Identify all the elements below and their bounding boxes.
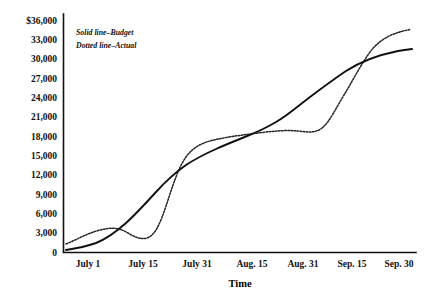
legend-entry-budget: Solid line–Budget <box>76 28 134 37</box>
legend-entry-actual: Dotted line–Actual <box>75 41 137 50</box>
y-tick-label: 21,000 <box>31 112 57 122</box>
x-tick-label: Sep. 15 <box>337 259 366 269</box>
chart-canvas: $36,000 33,000 30,000 27,000 24,000 21,0… <box>0 0 424 304</box>
y-tick-label: 3,000 <box>36 228 58 238</box>
x-tick-label: Aug. 15 <box>236 259 267 269</box>
x-tick-label: July 31 <box>182 259 212 269</box>
y-tick-label: 9,000 <box>36 190 58 200</box>
series-budget-line <box>66 49 412 250</box>
x-tick-label: July 1 <box>76 259 101 269</box>
line-chart: $36,000 33,000 30,000 27,000 24,000 21,0… <box>0 0 424 304</box>
y-tick-label: 6,000 <box>36 209 58 219</box>
y-tick-label: 0 <box>52 248 57 258</box>
x-tick-label: Aug. 31 <box>287 259 318 269</box>
x-tick-label: Sep. 30 <box>384 259 413 269</box>
y-tick-label: 27,000 <box>31 74 57 84</box>
y-tick-label: 30,000 <box>31 54 57 64</box>
y-tick-label: $36,000 <box>26 16 57 26</box>
y-axis-tick-labels: $36,000 33,000 30,000 27,000 24,000 21,0… <box>26 16 57 258</box>
x-axis-tick-labels: July 1 July 15 July 31 Aug. 15 Aug. 31 S… <box>76 259 414 269</box>
series-actual-line <box>66 30 410 245</box>
y-tick-label: 12,000 <box>31 170 57 180</box>
x-axis-title: Time <box>228 278 251 289</box>
y-tick-label: 15,000 <box>31 151 57 161</box>
y-tick-label: 18,000 <box>31 132 57 142</box>
legend: Solid line–Budget Dotted line–Actual <box>75 28 137 50</box>
x-tick-label: July 15 <box>128 259 158 269</box>
y-tick-label: 33,000 <box>31 35 57 45</box>
y-tick-label: 24,000 <box>31 93 57 103</box>
